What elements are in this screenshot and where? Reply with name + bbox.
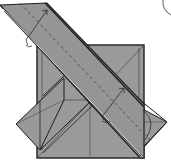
origami-diagram <box>0 0 171 165</box>
rotation-arc-icon <box>163 0 171 15</box>
